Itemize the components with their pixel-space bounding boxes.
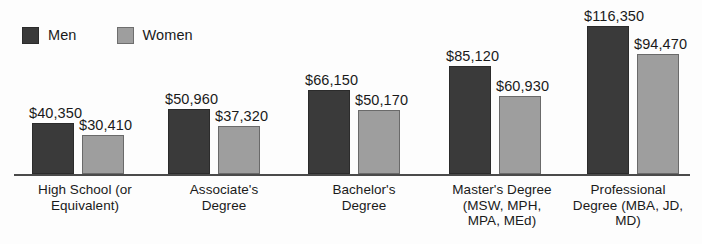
x-axis-label-high-school: High School (or Equivalent) [6, 182, 164, 213]
x-axis-label-associates: Associate's Degree [155, 182, 293, 213]
bar-women [499, 96, 541, 174]
bar-slot-men: $85,120 [449, 66, 491, 174]
x-axis-label-masters: Master's Degree (MSW, MPH, MPA, MEd) [428, 182, 576, 229]
x-axis-baseline [14, 174, 690, 176]
bar-slot-women: $94,470 [637, 54, 679, 174]
bar-value-women: $94,470 [634, 37, 687, 52]
bar-men [32, 123, 74, 174]
bar-value-men: $40,350 [29, 106, 82, 121]
bar-value-women: $30,410 [79, 118, 132, 133]
bar-men [168, 109, 210, 174]
bar-slot-women: $60,930 [499, 96, 541, 174]
bar-slot-women: $30,410 [82, 135, 124, 174]
bar-slot-women: $50,170 [358, 110, 400, 174]
bar-value-men: $85,120 [446, 49, 499, 64]
bar-women [218, 126, 260, 174]
bar-value-women: $50,170 [355, 93, 408, 108]
bar-value-men: $50,960 [165, 92, 218, 107]
bar-slot-men: $116,350 [587, 26, 629, 174]
bar-value-men: $66,150 [305, 73, 358, 88]
bar-women [358, 110, 400, 174]
x-axis-label-professional: Professional Degree (MBA, JD, MD) [556, 182, 700, 229]
x-axis-label-bachelors: Bachelor's Degree [295, 182, 433, 213]
bar-slot-women: $37,320 [218, 126, 260, 174]
bar-value-men: $116,350 [584, 9, 644, 24]
bar-slot-men: $50,960 [168, 109, 210, 174]
bar-chart: Men Women $40,350 $30,410 [0, 0, 702, 244]
bar-men [587, 26, 629, 174]
bar-men [308, 90, 350, 174]
bar-slot-men: $40,350 [32, 123, 74, 174]
bar-slot-men: $66,150 [308, 90, 350, 174]
bar-women [82, 135, 124, 174]
bar-value-women: $37,320 [215, 109, 268, 124]
bar-value-women: $60,930 [496, 79, 549, 94]
plot-area: $40,350 $30,410 $50,960 $37,320 [0, 0, 702, 176]
bar-men [449, 66, 491, 174]
bar-women [637, 54, 679, 174]
